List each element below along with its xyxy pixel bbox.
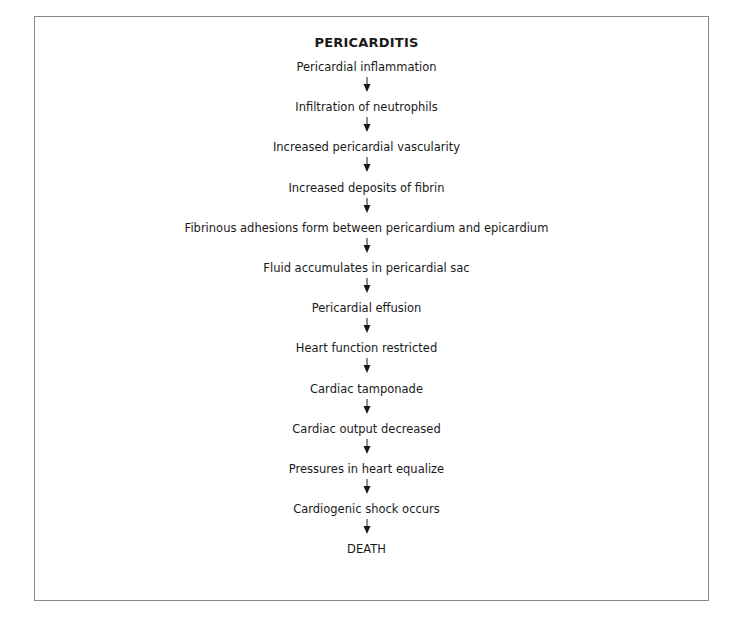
flow-step: Cardiac tamponade xyxy=(0,382,733,396)
down-arrow-icon xyxy=(362,198,372,213)
down-arrow-icon xyxy=(362,157,372,172)
diagram-title: PERICARDITIS xyxy=(0,35,733,50)
down-arrow-icon xyxy=(362,238,372,253)
down-arrow-icon xyxy=(362,439,372,454)
flow-step: Cardiac output decreased xyxy=(0,422,733,436)
flow-step: Pericardial effusion xyxy=(0,301,733,315)
flow-step: Pericardial inflammation xyxy=(0,60,733,74)
flow-step: Increased deposits of fibrin xyxy=(0,181,733,195)
down-arrow-icon xyxy=(362,358,372,373)
flow-step: Infiltration of neutrophils xyxy=(0,100,733,114)
flow-step: Fluid accumulates in pericardial sac xyxy=(0,261,733,275)
flow-step: Fibrinous adhesions form between pericar… xyxy=(0,221,733,235)
flow-step: Heart function restricted xyxy=(0,341,733,355)
down-arrow-icon xyxy=(362,117,372,132)
down-arrow-icon xyxy=(362,399,372,414)
down-arrow-icon xyxy=(362,77,372,92)
down-arrow-icon xyxy=(362,278,372,293)
flow-step: Pressures in heart equalize xyxy=(0,462,733,476)
flow-step: Cardiogenic shock occurs xyxy=(0,502,733,516)
down-arrow-icon xyxy=(362,519,372,534)
flow-step: Increased pericardial vascularity xyxy=(0,140,733,154)
down-arrow-icon xyxy=(362,318,372,333)
flow-step-final: DEATH xyxy=(0,542,733,556)
down-arrow-icon xyxy=(362,479,372,494)
